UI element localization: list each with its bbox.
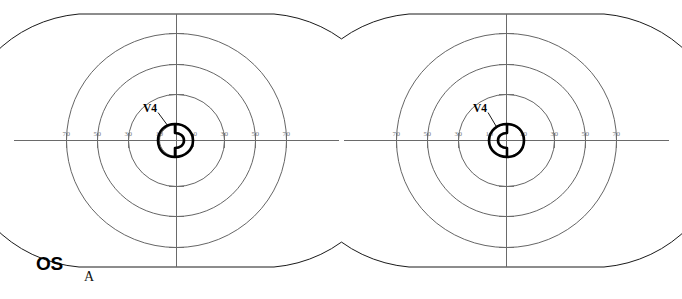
subfigure-label-a: A (84, 270, 94, 284)
visual-field-panel-od: 70 50 30 10 10 30 50 70 V4 OD B (341, 0, 682, 299)
isopter-label-od: V4 (473, 102, 487, 114)
tick-label-70-right-os: 70 (283, 130, 291, 138)
tick-label-50-left-od: 50 (424, 130, 432, 138)
visual-field-panel-os: 70 50 30 10 10 30 50 70 V4 OS A (0, 0, 341, 299)
eye-label-os: OS (36, 254, 63, 273)
visual-field-figure: 70 50 30 10 10 30 50 70 V4 OS A (0, 0, 682, 299)
tick-label-70-left-os: 70 (63, 130, 71, 138)
tick-label-30-left-od: 30 (455, 130, 463, 138)
tick-label-70-left-od: 70 (393, 130, 401, 138)
tick-label-30-right-os: 30 (221, 130, 229, 138)
tick-label-50-right-od: 50 (582, 130, 590, 138)
isopter-leader-line-os (158, 113, 168, 127)
tick-label-30-right-od: 30 (551, 130, 559, 138)
tick-label-50-right-os: 50 (252, 130, 260, 138)
visual-field-chart-od: 70 50 30 10 10 30 50 70 V4 (341, 0, 682, 299)
tick-label-70-right-od: 70 (613, 130, 621, 138)
tick-label-30-left-os: 30 (125, 130, 133, 138)
tick-label-50-left-os: 50 (94, 130, 102, 138)
isopter-label-os: V4 (143, 102, 157, 114)
isopter-leader-line-od (488, 113, 496, 127)
